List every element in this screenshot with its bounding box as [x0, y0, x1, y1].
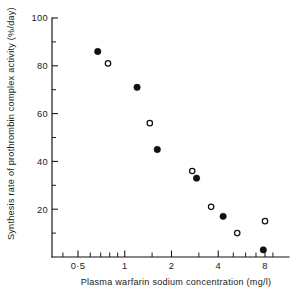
y-axis-ticks: [52, 18, 58, 233]
x-tick-label: 0·5: [71, 261, 85, 271]
y-tick-label: 40: [37, 157, 48, 167]
figure-container: 10080604020 0·51248 Synthesis rate of pr…: [0, 0, 301, 296]
data-point-filled: [134, 84, 140, 90]
data-point-open: [105, 61, 110, 66]
series-open-circles: [105, 61, 267, 236]
data-point-filled: [220, 213, 226, 219]
y-tick-label: 20: [37, 205, 48, 215]
y-tick-label: 100: [32, 13, 48, 23]
data-point-filled: [154, 146, 160, 152]
x-axis-title: Plasma warfarin sodium concentration (mg…: [81, 277, 272, 287]
x-tick-label: 1: [122, 261, 127, 271]
data-series-group: [95, 48, 268, 253]
y-axis-tick-labels: 10080604020: [32, 13, 48, 214]
x-tick-label: 8: [262, 261, 267, 271]
y-axis-title: Synthesis rate of prothrombin complex ac…: [6, 7, 16, 240]
series-filled-circles: [95, 48, 267, 253]
data-point-open: [190, 168, 195, 173]
data-point-filled: [260, 247, 266, 253]
x-axis-tick-labels: 0·51248: [71, 261, 268, 271]
data-point-open: [235, 230, 240, 235]
data-point-open: [147, 120, 152, 125]
plot-axes: [52, 18, 289, 257]
data-point-open: [208, 204, 213, 209]
x-axis-ticks: [63, 251, 273, 258]
data-point-filled: [193, 175, 199, 181]
y-tick-label: 60: [37, 109, 48, 119]
x-tick-label: 2: [169, 261, 174, 271]
data-point-open: [262, 218, 267, 223]
data-point-filled: [95, 48, 101, 54]
y-tick-label: 80: [37, 61, 48, 71]
x-tick-label: 4: [216, 261, 221, 271]
scatter-plot: 10080604020 0·51248 Synthesis rate of pr…: [0, 0, 301, 296]
